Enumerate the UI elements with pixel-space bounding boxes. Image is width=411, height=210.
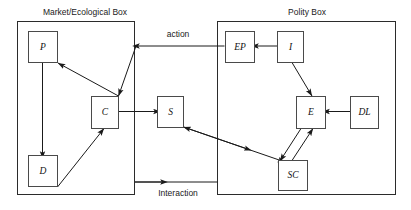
edge-action-branch-to-c bbox=[119, 46, 137, 96]
node-label-ep: EP bbox=[233, 42, 246, 52]
node-label-s: S bbox=[168, 107, 173, 117]
edge-s-to-sc-midarrow bbox=[184, 127, 249, 149]
edge-label-interaction: Interaction bbox=[158, 188, 198, 198]
node-label-c: C bbox=[102, 107, 109, 117]
diagram-svg: Market/Ecological Box Polity Box bbox=[0, 0, 411, 210]
node-e[interactable]: E bbox=[297, 97, 326, 129]
group-title-market: Market/Ecological Box bbox=[43, 7, 128, 17]
node-label-e: E bbox=[307, 107, 314, 117]
node-label-dl: DL bbox=[357, 107, 370, 117]
node-label-p: P bbox=[39, 42, 46, 52]
group-title-polity: Polity Box bbox=[288, 7, 327, 17]
node-dl[interactable]: DL bbox=[351, 97, 379, 129]
node-i[interactable]: I bbox=[278, 32, 304, 63]
edge-e-to-i bbox=[292, 63, 312, 97]
node-p[interactable]: P bbox=[29, 32, 58, 63]
node-c[interactable]: C bbox=[92, 97, 119, 129]
node-d[interactable]: D bbox=[29, 156, 58, 187]
edge-label-action: action bbox=[167, 29, 190, 39]
edge-d-to-c bbox=[58, 129, 105, 188]
diagram-canvas: Market/Ecological Box Polity Box bbox=[0, 0, 411, 210]
edge-sc-to-e bbox=[292, 129, 313, 161]
node-label-d: D bbox=[39, 166, 47, 176]
node-sc[interactable]: SC bbox=[279, 161, 308, 191]
node-ep[interactable]: EP bbox=[226, 32, 255, 63]
node-label-sc: SC bbox=[287, 170, 299, 180]
node-s[interactable]: S bbox=[158, 97, 184, 128]
edge-e-to-sc bbox=[280, 129, 301, 162]
edge-c-to-p bbox=[58, 63, 119, 96]
